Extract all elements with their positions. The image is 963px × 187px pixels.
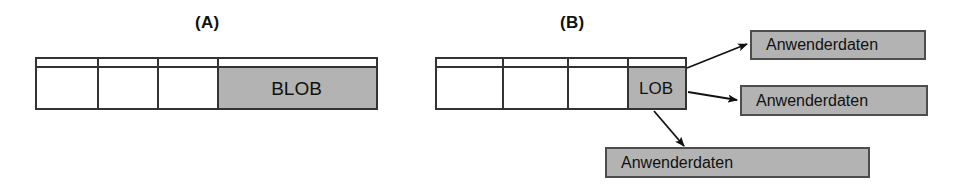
record-b-cell-2 [502,68,567,108]
anwenderdaten-box-1: Anwenderdaten [750,30,926,60]
record-a-divider-1 [97,59,99,108]
record-b-lob-cell: LOB [627,68,685,108]
anwenderdaten-box-3-label: Anwenderdaten [607,155,733,171]
record-a-header-strip [37,59,376,68]
record-b-header-strip [437,59,685,68]
record-a: BLOB [35,57,378,110]
record-b: LOB [435,57,687,110]
record-b-cell-1 [437,68,502,108]
anwenderdaten-box-3: Anwenderdaten [605,147,870,178]
blob-lob-figure: (A) BLOB (B) LOB Anwenderdaten Anwenderd… [0,0,963,187]
arrow-to-anwenderdaten-3 [654,111,684,146]
panel-a-label: (A) [195,14,220,31]
anwenderdaten-box-2-label: Anwenderdaten [742,93,868,109]
arrow-to-anwenderdaten-1 [687,44,747,68]
record-a-cell-1 [37,68,97,108]
anwenderdaten-box-1-label: Anwenderdaten [752,37,878,53]
blob-label: BLOB [271,79,322,98]
record-a-blob-cell: BLOB [217,68,376,108]
record-a-divider-2 [157,59,159,108]
record-a-cell-3 [157,68,217,108]
record-b-divider-3 [627,59,629,108]
lob-label: LOB [639,80,673,97]
record-a-cell-2 [97,68,157,108]
arrow-to-anwenderdaten-2 [688,92,737,100]
record-b-divider-1 [502,59,504,108]
anwenderdaten-box-2: Anwenderdaten [740,85,928,116]
record-b-divider-2 [567,59,569,108]
panel-b-label: (B) [560,14,585,31]
record-b-cell-3 [567,68,627,108]
record-a-divider-3 [217,59,219,108]
